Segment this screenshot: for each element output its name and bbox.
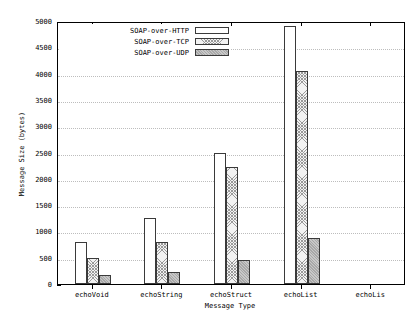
x-tick-label: echoVoid: [75, 291, 109, 299]
bar-chart: Message Size (bytes) 0500100015002000250…: [0, 0, 411, 320]
y-tick-label: 5000: [0, 18, 57, 26]
bar-soap-over-udp-echoStruct: [238, 260, 250, 284]
x-tick-mark: [370, 285, 371, 289]
y-tick-label: 1500: [0, 202, 57, 210]
legend-item: SOAP-over-TCP: [61, 37, 229, 46]
legend-label: SOAP-over-HTTP: [130, 27, 189, 35]
x-tick-mark: [161, 285, 162, 289]
gridline: [58, 128, 404, 129]
x-tick-mark: [92, 285, 93, 289]
x-tick-mark: [301, 285, 302, 289]
x-tick-mark-top: [370, 22, 371, 26]
y-tick-label: 3500: [0, 97, 57, 105]
open-rectangle-swatch-icon: [195, 27, 229, 34]
bar-soap-over-udp-echoList: [308, 238, 320, 284]
gridline: [58, 155, 404, 156]
legend-item: SOAP-over-UDP: [61, 48, 229, 57]
bar-soap-over-http-echoStruct: [214, 153, 226, 285]
y-tick-label: 3000: [0, 123, 57, 131]
y-tick-label: 4000: [0, 71, 57, 79]
legend-label: SOAP-over-UDP: [134, 49, 189, 57]
gridline: [58, 102, 404, 103]
solid-gray-rectangle-swatch-icon: [195, 49, 229, 56]
y-tick-label: 2000: [0, 176, 57, 184]
x-tick-label: echoString: [140, 291, 182, 299]
x-tick-label: echoList: [284, 291, 318, 299]
y-tick-label: 1000: [0, 228, 57, 236]
bar-soap-over-tcp-echoStruct: [226, 167, 238, 284]
y-tick-label: 0: [0, 281, 57, 289]
legend-item: SOAP-over-HTTP: [61, 26, 229, 35]
legend: SOAP-over-HTTP SOAP-over-TCP SOAP-over-U…: [59, 24, 231, 61]
x-axis-title: Message Type: [55, 302, 405, 310]
x-tick-mark: [231, 285, 232, 289]
legend-label: SOAP-over-TCP: [134, 38, 189, 46]
y-tick-label: 500: [0, 255, 57, 263]
x-tick-mark-top: [231, 22, 232, 26]
y-tick-mark: [57, 285, 61, 286]
bar-soap-over-http-echoList: [284, 26, 296, 284]
bar-soap-over-http-echoVoid: [75, 242, 87, 284]
y-tick-label: 4500: [0, 44, 57, 52]
x-tick-mark-top: [301, 22, 302, 26]
bar-soap-over-tcp-echoVoid: [87, 258, 99, 284]
bar-soap-over-http-echoString: [144, 218, 156, 284]
bar-soap-over-tcp-echoList: [296, 71, 308, 284]
bar-soap-over-udp-echoString: [168, 272, 180, 284]
gridline: [58, 76, 404, 77]
y-tick-label: 2500: [0, 150, 57, 158]
bar-soap-over-tcp-echoString: [156, 242, 168, 284]
x-tick-label: echoStruct: [210, 291, 252, 299]
x-tick-label: echoLis: [355, 291, 385, 299]
y-axis-ticks: 0500100015002000250030003500400045005000: [0, 0, 57, 320]
checkered-rectangle-swatch-icon: [195, 38, 229, 45]
plot-area: [57, 22, 405, 285]
bar-soap-over-udp-echoVoid: [99, 275, 111, 284]
